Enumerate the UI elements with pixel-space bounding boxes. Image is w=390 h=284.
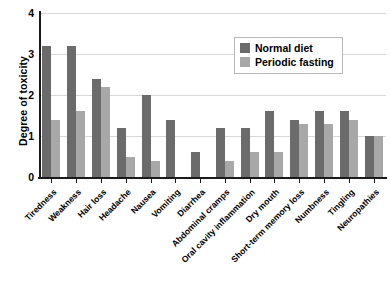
bar-group	[64, 13, 89, 177]
bar	[92, 79, 101, 177]
x-label-cell: Hair loss	[89, 183, 114, 283]
y-tick-label: 3	[4, 48, 34, 60]
toxicity-bar-chart: Degree of toxicity 01234 TirednessWeakne…	[0, 0, 390, 284]
bar	[265, 111, 274, 177]
y-tick-label: 2	[4, 89, 34, 101]
bar-group	[188, 13, 213, 177]
x-label-cell: Headache	[113, 183, 138, 283]
bar	[67, 46, 76, 177]
x-axis-category-labels: TirednessWeaknessHair lossHeadacheNausea…	[39, 183, 386, 283]
bar	[241, 128, 250, 177]
bar-group	[163, 13, 188, 177]
bar	[299, 124, 308, 177]
bar	[250, 152, 259, 177]
bar	[340, 111, 349, 177]
legend-label: Periodic fasting	[255, 56, 334, 68]
y-tick-label: 4	[4, 7, 34, 19]
bar	[274, 152, 283, 177]
legend-item[interactable]: Periodic fasting	[240, 55, 334, 69]
y-axis-tick-labels: 01234	[0, 13, 34, 177]
x-label-cell: Weakness	[64, 183, 89, 283]
bar	[191, 152, 200, 177]
bar	[142, 95, 151, 177]
x-label-cell: Short-term memory loss	[287, 183, 312, 283]
bar	[315, 111, 324, 177]
x-label-cell: Numbness	[312, 183, 337, 283]
bar	[126, 157, 135, 178]
x-label-cell: Tingling	[336, 183, 361, 283]
bar	[225, 161, 234, 177]
bar	[324, 124, 333, 177]
bar	[216, 128, 225, 177]
bar	[101, 87, 110, 177]
bar	[349, 120, 358, 177]
y-tick-label: 1	[4, 130, 34, 142]
bar-group	[39, 13, 64, 177]
bar	[374, 136, 383, 177]
bar	[166, 120, 175, 177]
bar-group	[138, 13, 163, 177]
bar	[365, 136, 374, 177]
chart-legend: Normal dietPeriodic fasting	[234, 37, 343, 74]
legend-item[interactable]: Normal diet	[240, 41, 334, 55]
bar-group	[113, 13, 138, 177]
bar	[290, 120, 299, 177]
bar	[117, 128, 126, 177]
bar	[151, 161, 160, 177]
bar	[51, 120, 60, 177]
legend-swatch	[240, 57, 250, 67]
bar	[76, 111, 85, 177]
legend-swatch	[240, 43, 250, 53]
y-tick-label: 0	[4, 171, 34, 183]
bar-group	[361, 13, 386, 177]
x-label-cell: Nausea	[138, 183, 163, 283]
x-label-cell: Neuropathies	[361, 183, 386, 283]
x-label-cell: Tiredness	[39, 183, 64, 283]
bar-group	[89, 13, 114, 177]
bar	[42, 46, 51, 177]
legend-label: Normal diet	[255, 42, 313, 54]
